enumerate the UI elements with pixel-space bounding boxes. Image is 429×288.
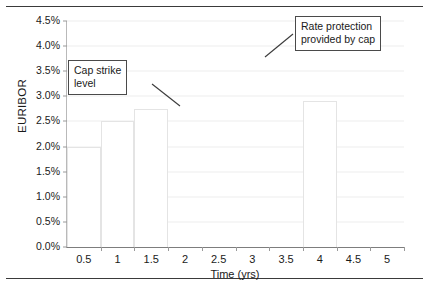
x-axis-tick [404, 247, 405, 251]
x-axis-tick [337, 247, 338, 251]
x-axis-tick [370, 247, 371, 251]
plot-area: 0.0%0.5%1.0%1.5%2.0%2.5%3.0%3.5%4.0%4.5%… [66, 21, 404, 248]
y-tick-mark [63, 21, 67, 22]
chart-figure: EURIBOR Time (yrs) 0.0%0.5%1.0%1.5%2.0%2… [0, 0, 429, 288]
y-tick-label: 2.0% [36, 139, 60, 151]
x-axis-title: Time (yrs) [66, 268, 404, 280]
y-tick-label: 1.0% [36, 189, 60, 201]
y-tick-mark [63, 96, 67, 97]
bar-below-cap [303, 101, 337, 247]
x-tick-label: 4.5 [346, 253, 361, 265]
y-tick-mark [63, 121, 67, 122]
y-tick-label: 2.5% [36, 114, 60, 126]
x-tick-label: 2 [182, 253, 188, 265]
annotation-cap-strike: Cap strike level [68, 60, 127, 95]
y-tick-label: 3.5% [36, 64, 60, 76]
bar-below-cap [101, 121, 135, 247]
x-tick-label: 4 [317, 253, 323, 265]
x-tick-label: 3 [249, 253, 255, 265]
x-tick-label: 1.5 [144, 253, 159, 265]
x-axis-tick [269, 247, 270, 251]
y-tick-label: 3.0% [36, 89, 60, 101]
x-tick-label: 0.5 [76, 253, 91, 265]
y-gridline [67, 96, 404, 97]
y-tick-mark [63, 71, 67, 72]
x-axis-tick [202, 247, 203, 251]
y-axis-title: EURIBOR [16, 46, 28, 166]
x-axis-tick [236, 247, 237, 251]
y-tick-label: 0.0% [36, 240, 60, 252]
y-tick-label: 4.0% [36, 39, 60, 51]
top-divider-rule [6, 6, 423, 7]
y-tick-label: 0.5% [36, 214, 60, 226]
y-tick-label: 1.5% [36, 164, 60, 176]
y-tick-mark [63, 46, 67, 47]
x-axis-tick [168, 247, 169, 251]
x-tick-label: 2.5 [211, 253, 226, 265]
x-axis-tick [101, 247, 102, 251]
x-axis-tick [303, 247, 304, 251]
x-tick-label: 3.5 [278, 253, 293, 265]
x-tick-label: 1 [114, 253, 120, 265]
x-tick-label: 5 [384, 253, 390, 265]
bar-below-cap [134, 109, 168, 247]
annotation-rate-protection: Rate protection provided by cap [295, 16, 381, 51]
x-axis-tick [134, 247, 135, 251]
bar-below-cap [67, 147, 101, 247]
y-tick-label: 4.5% [36, 14, 60, 26]
